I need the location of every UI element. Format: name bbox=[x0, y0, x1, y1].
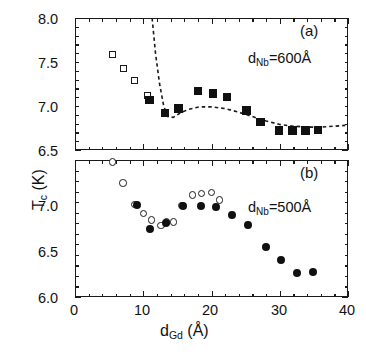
ytick-b-left-6.0 bbox=[75, 297, 81, 298]
xtick-top-p1-22 bbox=[225, 160, 226, 164]
ytick-b-right-6.3 bbox=[345, 265, 349, 266]
xtick-top-p0-40 bbox=[348, 18, 349, 24]
xtick-bot-p0-24 bbox=[239, 147, 240, 151]
x-axis-title-main: d bbox=[160, 322, 169, 339]
ytick-a-right-6.7 bbox=[345, 132, 349, 133]
xtick-top-p1-20 bbox=[212, 160, 213, 166]
xtick-40: 40 bbox=[339, 302, 355, 318]
ytick-b-right-6.5 bbox=[345, 244, 349, 245]
data-point-square-filled bbox=[145, 96, 154, 105]
xtick-bot-p0-22 bbox=[225, 147, 226, 151]
xtick-top-p1-34 bbox=[307, 160, 308, 164]
ytick-b-left-7.2 bbox=[75, 171, 79, 172]
ytick-b-right-7.1 bbox=[345, 181, 349, 182]
xtick-top-p0-20 bbox=[212, 18, 213, 24]
panel-b-ytick-6.5: 6.5 bbox=[38, 244, 58, 260]
ytick-a-right-7.4 bbox=[345, 71, 349, 72]
ytick-b-right-6.4 bbox=[345, 255, 349, 256]
xtick-bot-p1-16 bbox=[184, 294, 185, 298]
xtick-bot-p0-18 bbox=[198, 147, 199, 151]
xtick-top-p1-24 bbox=[239, 160, 240, 164]
panel-b-annot-suffix: =500Å bbox=[269, 199, 311, 215]
ytick-a-left-7.3 bbox=[75, 80, 79, 81]
xtick-top-p1-30 bbox=[280, 160, 281, 166]
ytick-a-left-7.5 bbox=[75, 62, 79, 63]
xtick-0: 0 bbox=[70, 302, 78, 318]
xtick-bot-p1-28 bbox=[266, 294, 267, 298]
data-point-square-filled bbox=[209, 89, 218, 98]
xtick-bot-p0-10 bbox=[143, 144, 144, 150]
panel-a-tag: (a) bbox=[300, 22, 318, 39]
data-point-circle-open bbox=[189, 191, 197, 199]
xtick-top-p1-16 bbox=[184, 160, 185, 164]
xtick-bot-p1-26 bbox=[252, 294, 253, 298]
data-point-circle-filled bbox=[146, 225, 154, 233]
data-point-square-filled bbox=[223, 93, 232, 102]
x-axis-title: dGd (Å) bbox=[160, 322, 209, 340]
ytick-b-left-6.4 bbox=[75, 255, 79, 256]
xtick-top-p0-36 bbox=[321, 18, 322, 22]
xtick-bot-p1-22 bbox=[225, 294, 226, 298]
ytick-b-right-6.6 bbox=[345, 234, 349, 235]
ytick-b-right-6.2 bbox=[345, 276, 349, 277]
xtick-top-p1-8 bbox=[130, 160, 131, 164]
xtick-bot-p0-28 bbox=[266, 147, 267, 151]
xtick-bot-p0-20 bbox=[212, 144, 213, 150]
xtick-top-p1-14 bbox=[171, 160, 172, 164]
ytick-a-right-7.2 bbox=[345, 88, 349, 89]
ytick-b-left-6.6 bbox=[75, 234, 79, 235]
xtick-bot-p1-12 bbox=[157, 294, 158, 298]
ytick-a-left-7.8 bbox=[75, 36, 79, 37]
y-axis-title-unit: (K) bbox=[30, 169, 47, 195]
xtick-top-p0-12 bbox=[157, 18, 158, 22]
panel-a-annot-suffix: =600Å bbox=[269, 50, 311, 66]
ytick-a-right-6.9 bbox=[345, 115, 349, 116]
xtick-top-p1-4 bbox=[102, 160, 103, 164]
ytick-a-right-7.5 bbox=[345, 62, 349, 63]
ytick-a-left-7.7 bbox=[75, 44, 79, 45]
xtick-top-p1-26 bbox=[252, 160, 253, 164]
ytick-a-left-6.8 bbox=[75, 124, 79, 125]
data-point-square-open bbox=[131, 77, 138, 84]
ytick-a-left-6.7 bbox=[75, 132, 79, 133]
ytick-a-left-7.0 bbox=[75, 106, 79, 107]
ytick-b-right-7.3 bbox=[345, 160, 349, 161]
xtick-top-p0-38 bbox=[334, 18, 335, 22]
xtick-bot-p1-32 bbox=[293, 294, 294, 298]
ytick-b-right-6.9 bbox=[345, 202, 349, 203]
data-point-square-filled bbox=[194, 87, 203, 96]
xtick-bot-p1-14 bbox=[171, 294, 172, 298]
data-point-square-filled bbox=[161, 109, 170, 118]
xtick-top-p1-6 bbox=[116, 160, 117, 164]
data-point-circle-open bbox=[148, 216, 156, 224]
xtick-top-p1-10 bbox=[143, 160, 144, 166]
ytick-a-left-8.0 bbox=[75, 18, 79, 19]
data-point-square-filled bbox=[288, 126, 297, 135]
xtick-bot-p1-36 bbox=[321, 294, 322, 298]
panel-b-tag: (b) bbox=[300, 164, 318, 181]
ytick-b-right-6.8 bbox=[345, 213, 349, 214]
data-point-square-filled bbox=[256, 118, 265, 127]
panel-b-annot-prefix: d bbox=[248, 199, 256, 215]
xtick-bot-p0-6 bbox=[116, 147, 117, 151]
ytick-a-left-7.4 bbox=[75, 71, 79, 72]
ytick-b-right-6.0 bbox=[342, 297, 348, 298]
xtick-bot-p1-4 bbox=[102, 294, 103, 298]
xtick-top-p0-10 bbox=[143, 18, 144, 24]
panel-b-ytick-7.0: 7.0 bbox=[38, 198, 58, 214]
panel-a-annotation: dNb=600Å bbox=[248, 50, 311, 66]
xtick-top-p0-18 bbox=[198, 18, 199, 22]
panel-a-ytick-7.5: 7.5 bbox=[38, 55, 58, 71]
ytick-a-left-7.9 bbox=[75, 27, 79, 28]
xtick-bot-p0-4 bbox=[102, 147, 103, 151]
xtick-top-p0-24 bbox=[239, 18, 240, 22]
xtick-bot-p1-40 bbox=[348, 291, 349, 297]
data-point-square-filled bbox=[174, 104, 183, 113]
xtick-bot-p1-2 bbox=[89, 294, 90, 298]
xtick-top-p1-28 bbox=[266, 160, 267, 164]
x-axis-title-sub: Gd bbox=[169, 329, 183, 341]
data-point-circle-filled bbox=[309, 268, 317, 276]
ytick-b-left-7.0 bbox=[75, 192, 79, 193]
panel-b-annotation: dNb=500Å bbox=[248, 199, 311, 215]
data-point-square-filled bbox=[301, 126, 310, 135]
